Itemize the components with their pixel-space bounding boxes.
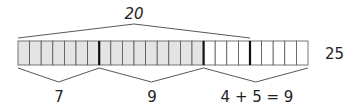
brace — [99, 68, 203, 82]
total-label: 25 — [325, 45, 344, 63]
strip-cell — [169, 41, 181, 65]
number-strip-diagram: 20 25 7 9 4 + 5 = 9 — [0, 0, 344, 112]
strip-cell — [227, 41, 239, 65]
strip-cell — [30, 41, 42, 65]
strip-cell — [262, 41, 274, 65]
bottom-label-3: 4 + 5 = 9 — [221, 88, 294, 106]
strip-cell — [204, 41, 216, 65]
strip-cell — [53, 41, 65, 65]
strip-cell — [238, 41, 250, 65]
strip-cell — [273, 41, 285, 65]
strip-cell — [99, 41, 111, 65]
strip-cell — [122, 41, 134, 65]
strip-cell — [250, 41, 262, 65]
strip-cell — [180, 41, 192, 65]
strip-cell — [41, 41, 53, 65]
strip-cell — [111, 41, 123, 65]
strip-cell — [296, 41, 308, 65]
strip-cell — [146, 41, 158, 65]
strip-cell — [192, 41, 204, 65]
bottom-label-1: 7 — [54, 88, 64, 106]
strip-cell — [76, 41, 88, 65]
strip-cell — [157, 41, 169, 65]
strip-cell — [285, 41, 297, 65]
strip-cell — [215, 41, 227, 65]
brace — [204, 68, 308, 82]
brace — [18, 68, 99, 82]
top-brace-label: 20 — [124, 5, 143, 23]
bottom-label-2: 9 — [147, 88, 157, 106]
strip-cell — [88, 41, 100, 65]
strip-cell — [134, 41, 146, 65]
strip-cell — [64, 41, 76, 65]
brace — [18, 24, 250, 38]
strip-cell — [18, 41, 30, 65]
